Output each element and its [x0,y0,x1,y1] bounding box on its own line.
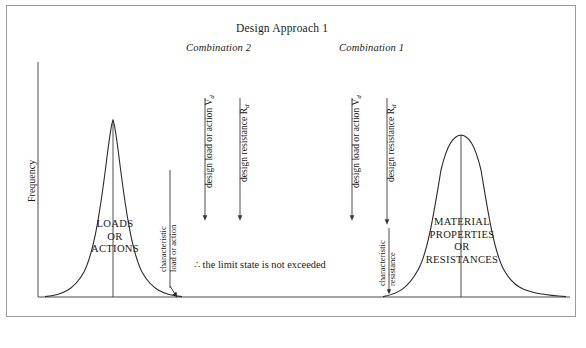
resistances-curve-label: MATERIAL PROPERTIES OR RESISTANCES [409,216,515,266]
design-resistance-subscript: d [390,104,397,107]
plot-canvas [0,0,586,348]
design-load-text: design load or action V [203,99,214,188]
y-axis-label: Frequency [26,160,38,202]
combination-1-header: Combination 1 [339,42,404,54]
conclusion-annotation: ∴ the limit state is not exceeded [194,259,326,271]
design-resistance-text: design resistance R [385,108,396,182]
resistances-label-line-1: MATERIAL [409,216,515,229]
design-resistance-text: design resistance R [238,108,249,182]
figure-design-approach-1: Design Approach 1 Combination 2 Combinat… [0,0,586,348]
loads-label-line-1: LOADS [80,218,150,231]
characteristic-load-line-2: load or action [169,225,179,272]
characteristic-resistance-line-2: resistance [388,240,398,286]
design-resistance-subscript: d [243,104,250,107]
combination-2-header: Combination 2 [186,42,251,54]
design-resistance-label-combination-1: design resistance Rd [385,104,398,182]
design-resistance-label-combination-2: design resistance Rd [238,104,251,182]
resistances-label-line-4: RESISTANCES [409,254,515,267]
loads-curve-label: LOADS OR ACTIONS [80,218,150,256]
resistances-label-line-3: OR [409,241,515,254]
design-load-subscript: d [208,95,215,98]
design-load-label-combination-1: design load or action Vd [350,95,363,188]
loads-label-line-2: OR [80,231,150,244]
design-load-text: design load or action V [350,99,361,188]
characteristic-load-label: characteristic load or action [159,225,178,272]
resistances-label-line-2: PROPERTIES [409,229,515,242]
figure-title: Design Approach 1 [236,22,328,36]
characteristic-resistance-label: characteristic resistance [378,240,397,286]
loads-label-line-3: ACTIONS [80,243,150,256]
design-load-label-combination-2: design load or action Vd [203,95,216,188]
design-load-subscript: d [355,95,362,98]
